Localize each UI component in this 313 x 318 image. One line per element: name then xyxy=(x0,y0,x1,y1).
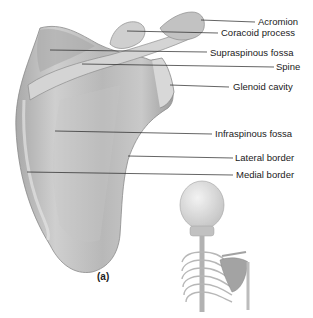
leader-line-acromion xyxy=(201,20,255,22)
label-glenoid-cavity: Glenoid cavity xyxy=(233,82,293,92)
label-lateral-border: Lateral border xyxy=(235,153,294,163)
label-supraspinous-fossa: Supraspinous fossa xyxy=(210,48,293,58)
label-spine: Spine xyxy=(276,62,300,72)
acromion xyxy=(160,12,204,40)
leader-line-glenoid-cavity xyxy=(170,85,229,87)
leader-line-lateral-border xyxy=(128,156,233,158)
figure-caption: (a) xyxy=(97,271,109,282)
scapula-figure: Acromion Coracoid process Supraspinous f… xyxy=(0,0,313,318)
label-coracoid-process: Coracoid process xyxy=(221,28,295,38)
skeleton-inset xyxy=(180,181,248,312)
label-acromion: Acromion xyxy=(258,17,298,27)
label-medial-border: Medial border xyxy=(236,170,294,180)
label-infraspinous-fossa: Infraspinous fossa xyxy=(215,129,292,139)
coracoid-process xyxy=(110,22,145,49)
